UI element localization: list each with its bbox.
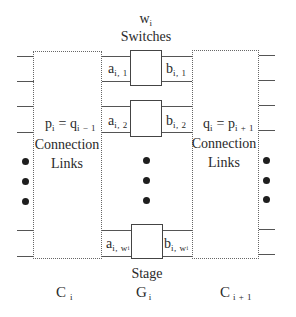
- out-subsub: i: [187, 245, 189, 251]
- switch-1-input-label: ai, 1: [108, 62, 128, 78]
- out-sub: i, 2: [173, 120, 187, 130]
- out-sub: i, 1: [173, 68, 187, 78]
- right-box-line1: Connection: [192, 137, 257, 151]
- switch-2-out-top-line: [162, 106, 192, 107]
- in-subsub: i: [128, 245, 130, 251]
- eq-right-var: q: [70, 116, 77, 131]
- switches-title: Switches: [121, 30, 172, 44]
- c-sub: i: [70, 292, 73, 302]
- right-output-line-5: [259, 229, 275, 230]
- c-i-plus-1-label: Ci + 1: [220, 285, 252, 302]
- switch-2-in-bottom-line: [102, 132, 131, 133]
- out-var: b: [164, 236, 171, 251]
- switch-w-in-top-line: [102, 230, 131, 231]
- c-var: C: [220, 284, 230, 300]
- switch-2-box: [130, 100, 162, 137]
- switch-2-out-bottom-line: [162, 132, 192, 133]
- left-input-line-4: [17, 132, 34, 133]
- c-i-label: Ci: [56, 285, 73, 302]
- in-sub: i, 2: [114, 120, 128, 130]
- eq-left-var: q: [203, 116, 210, 131]
- in-sub: i, 1: [114, 68, 128, 78]
- eq-right-sub: i + 1: [235, 123, 254, 133]
- right-output-line-3: [259, 105, 275, 106]
- switch-1-out-top-line: [162, 56, 192, 57]
- switch-1-in-top-line: [102, 56, 131, 57]
- left-ellipsis-dot-2: [22, 178, 29, 185]
- right-box-line2: Links: [208, 156, 240, 170]
- left-input-line-1: [17, 56, 34, 57]
- multistage-network-diagram: wi Switches pi = qi − 1 Connection Links…: [0, 0, 296, 317]
- left-box-line1: Connection: [35, 138, 100, 152]
- left-input-line-5: [17, 230, 34, 231]
- out-var: b: [166, 113, 173, 128]
- right-output-line-6: [259, 254, 275, 255]
- left-ellipsis-dot-1: [22, 158, 29, 165]
- switch-w-out-top-line: [163, 230, 192, 231]
- right-output-line-1: [259, 55, 275, 56]
- out-var: b: [166, 61, 173, 76]
- switch-w-input-label: ai, wi: [106, 237, 129, 253]
- switch-count-var: w: [139, 11, 149, 26]
- c-var: C: [56, 284, 66, 300]
- left-connection-links-box: [33, 51, 102, 259]
- g-i-label: Gi: [136, 285, 152, 302]
- left-ellipsis-dot-3: [22, 198, 29, 205]
- eq-op: =: [213, 116, 228, 131]
- right-output-line-2: [259, 80, 275, 81]
- g-var: G: [136, 284, 147, 300]
- stage-label: Stage: [131, 267, 162, 281]
- switch-w-output-label: bi, wi: [164, 237, 188, 253]
- c-sub: i + 1: [233, 292, 252, 302]
- in-sub: i, w: [112, 243, 128, 253]
- switch-1-out-bottom-line: [162, 81, 192, 82]
- right-ellipsis-dot-2: [263, 177, 270, 184]
- eq-right-var: p: [228, 116, 235, 131]
- switch-1-box: [130, 50, 162, 86]
- switch-count-label: wi: [139, 12, 152, 28]
- middle-ellipsis-dot-2: [143, 177, 150, 184]
- right-ellipsis-dot-1: [263, 157, 270, 164]
- switch-1-output-label: bi, 1: [166, 62, 187, 78]
- left-input-line-3: [17, 106, 34, 107]
- switch-w-box: [131, 224, 163, 259]
- right-box-equation: qi = pi + 1: [203, 117, 254, 133]
- right-output-line-4: [259, 130, 275, 131]
- switch-count-sub: i: [150, 18, 153, 28]
- switch-1-in-bottom-line: [102, 81, 131, 82]
- switch-2-input-label: ai, 2: [108, 114, 128, 130]
- eq-right-sub: i − 1: [77, 123, 96, 133]
- eq-op: =: [55, 116, 70, 131]
- eq-left-var: p: [45, 116, 52, 131]
- right-ellipsis-dot-3: [263, 196, 270, 203]
- switch-2-in-top-line: [102, 106, 131, 107]
- switch-2-output-label: bi, 2: [166, 114, 187, 130]
- middle-ellipsis-dot-1: [143, 157, 150, 164]
- switch-w-in-bottom-line: [102, 256, 131, 257]
- g-sub: i: [149, 292, 152, 302]
- switch-w-out-bottom-line: [163, 256, 192, 257]
- left-box-line2: Links: [51, 157, 83, 171]
- left-input-line-6: [17, 256, 34, 257]
- left-input-line-2: [17, 81, 34, 82]
- middle-ellipsis-dot-3: [143, 197, 150, 204]
- left-box-equation: pi = qi − 1: [45, 117, 96, 133]
- out-sub: i, w: [171, 243, 187, 253]
